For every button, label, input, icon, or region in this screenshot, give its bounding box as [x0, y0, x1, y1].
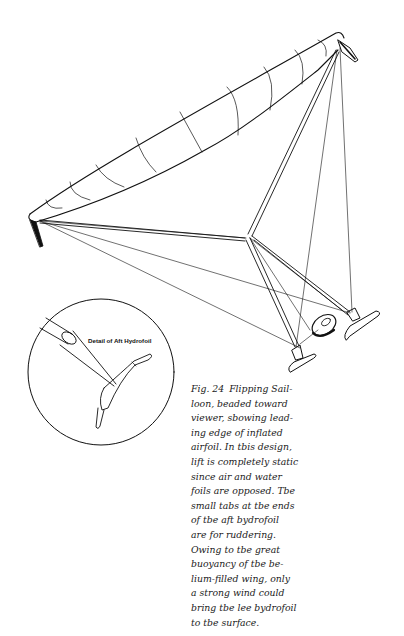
figure-caption: Fig. 24Flipping Sail- loon, beaded towar… — [191, 382, 321, 630]
caption-line: are for ruddering. — [191, 528, 321, 543]
rigging-lines — [40, 48, 352, 348]
inflated-wing — [29, 33, 344, 222]
caption-line: small tabs at tbe ends — [191, 499, 321, 514]
caption-line: ing edge of inflated — [191, 426, 321, 441]
caption-line: Owing to tbe great — [191, 543, 321, 558]
spars — [40, 50, 350, 347]
figure-number: Fig. 24 — [191, 383, 224, 394]
inset-label: Detail of Aft Hydrofoil — [88, 337, 151, 344]
caption-line: lium-filled wing, only — [191, 572, 321, 587]
gondola-pod — [308, 310, 340, 340]
caption-line: buoyancy of tbe be- — [191, 557, 321, 572]
lee-hydrofoil — [289, 345, 316, 372]
caption-line: viewer, sbowing lead- — [191, 411, 321, 426]
detail-inset — [28, 299, 174, 445]
caption-line: a strong wind could — [191, 586, 321, 601]
caption-line: loon, beaded toward — [191, 397, 321, 412]
caption-line: since air and water — [191, 470, 321, 485]
caption-line: foils are opposed. Tbe — [191, 484, 321, 499]
caption-line: airfoil. In tbis design, — [191, 440, 321, 455]
caption-line-0: Fig. 24Flipping Sail- — [191, 382, 321, 397]
caption-line: lift is completely static — [191, 455, 321, 470]
caption-line: of tbe aft bydrofoil — [191, 513, 321, 528]
caption-line: to tbe surface. — [191, 616, 321, 631]
left-wingtip-fin — [30, 220, 43, 247]
caption-line: bring tbe lee bydrofoil — [191, 601, 321, 616]
